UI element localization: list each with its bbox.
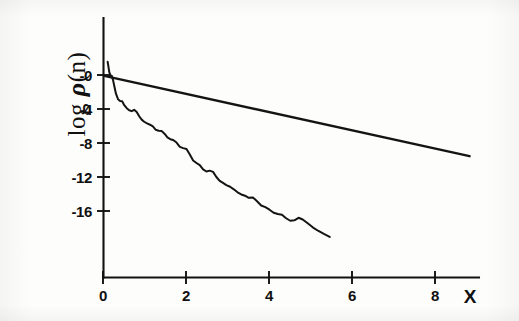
y-tick-label-0: -0 [79,67,92,84]
y-tick-label-m4: -4 [79,101,93,118]
x-tick-labels: 0 2 4 6 8 [99,287,439,304]
y-tick-label-m12: -12 [72,169,93,186]
x-tick-label-0: 0 [99,287,107,304]
plot-canvas: -0 -4 -8 -12 -16 0 2 4 6 8 X [0,0,519,321]
y-tick-label-m16: -16 [72,203,93,220]
y-tick-labels: -0 -4 -8 -12 -16 [72,67,94,220]
x-tick-label-2: 2 [182,287,190,304]
x-tick-label-6: 6 [348,287,356,304]
x-axis-label: X [464,286,477,307]
x-tick-label-8: 8 [431,287,439,304]
series-jagged-decay-curve [108,62,330,237]
y-tick-label-m8: -8 [79,135,92,152]
series-straight-reference-line [104,76,469,156]
figure-root: -0 -4 -8 -12 -16 0 2 4 6 8 X log ρ(n) [0,0,519,321]
axis-group [104,18,480,278]
x-tick-label-4: 4 [265,287,274,304]
